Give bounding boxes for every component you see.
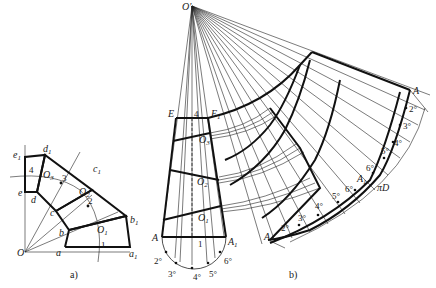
segment-4-outline [25, 155, 45, 192]
label-dev-4-bot: 4° [315, 201, 324, 211]
label-b1: b1 [130, 214, 139, 227]
label-seg-3: 3 [62, 173, 67, 183]
label-dev-2-bot: 2° [281, 223, 290, 233]
label-b: b [59, 227, 64, 238]
label-semi-4: 4° [193, 272, 202, 282]
label-seg-4: 4 [29, 165, 34, 175]
caption-a: a) [70, 269, 78, 281]
label-dev-A1: A1 [356, 173, 367, 186]
dev-seam-line [270, 108, 320, 240]
label-seg-1: 1 [101, 240, 106, 250]
dev-curve-4 [225, 65, 300, 160]
label-O1: O1 [198, 212, 209, 225]
label-semi-6: 6° [224, 256, 233, 266]
label-A: A [151, 232, 159, 243]
label-seg-1: 1 [198, 239, 203, 249]
label-dev-6-bot: 6° [345, 184, 354, 194]
label-seg-4: 4 [194, 109, 199, 119]
label-dev-6-top: 6° [366, 163, 375, 173]
label-a: a [56, 247, 61, 258]
label-apex-O-prime: O' [182, 1, 192, 12]
label-dev-2-top: 2° [409, 104, 418, 114]
figure-a-elbow-view: O a a1 b b1 c c1 d d1 e e1 O1 O2 O3 1 2 … [10, 143, 139, 281]
cut-line-2 [170, 170, 219, 180]
label-dev-5-bot: 5° [332, 191, 341, 201]
label-e: e [18, 187, 23, 198]
figure-b-development: O' E 4 E1 O3 O2 O1 A 1 A1 2° 3° 4° 5° 6°… [151, 1, 430, 282]
dev-outer-curve-A [268, 90, 410, 240]
diagram-canvas: O a a1 b b1 c c1 d d1 e e1 O1 O2 O3 1 2 … [0, 0, 436, 288]
label-e1: e1 [13, 149, 21, 162]
label-d: d [31, 194, 37, 205]
label-E: E [167, 108, 174, 119]
label-O1: O1 [97, 224, 108, 237]
dev-top-edge [208, 52, 312, 118]
label-piD: πD [377, 182, 390, 193]
label-semi-5: 5° [209, 269, 218, 279]
label-a1: a1 [129, 248, 138, 261]
label-A1: A1 [227, 236, 238, 249]
label-O: O [17, 247, 24, 258]
base-semicircle [162, 237, 226, 269]
label-c: c [50, 207, 55, 218]
label-dev-4-top: 4° [394, 138, 403, 148]
dev-outer-top [312, 52, 410, 90]
segment-3-outline [37, 155, 92, 211]
label-dev-3-top: 3° [403, 121, 412, 131]
label-dev-3-bot: 3° [298, 213, 307, 223]
label-semi-3: 3° [168, 269, 177, 279]
label-dev-A-bot: A [263, 231, 271, 242]
label-dev-5-top: 5° [381, 146, 390, 156]
label-E1: E1 [210, 108, 221, 121]
label-c1: c1 [93, 163, 101, 176]
label-seg-2: 2 [88, 196, 93, 206]
label-semi-2: 2° [154, 256, 163, 266]
label-O3: O3 [43, 169, 54, 182]
label-dev-A-top: A [412, 85, 420, 96]
caption-b: b) [289, 269, 297, 281]
